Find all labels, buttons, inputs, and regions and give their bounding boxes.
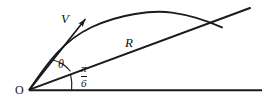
launch-angle-label: θ (58, 58, 64, 70)
velocity-label: V (61, 12, 69, 25)
range-label: R (125, 36, 133, 49)
incline-angle-denominator: 6 (81, 78, 87, 90)
figure-canvas (0, 0, 268, 108)
origin-label: O (15, 84, 24, 96)
incline-angle-label: π 6 (81, 63, 87, 89)
projectile-incline-figure: O V R θ π 6 (0, 0, 268, 108)
incline-angle-arc (71, 75, 72, 90)
incline-angle-numerator: π (81, 63, 87, 75)
